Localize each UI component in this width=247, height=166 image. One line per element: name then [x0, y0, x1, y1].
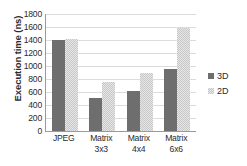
- x-axis-tick-label-line: Matrix: [158, 133, 196, 144]
- x-axis-tick-label-line: JPEG: [45, 133, 83, 144]
- y-axis-tick-label: 1000: [24, 61, 42, 71]
- bar-2d: [140, 73, 153, 131]
- y-axis-tick-label: 1200: [24, 48, 42, 58]
- bar-group: [46, 14, 84, 131]
- y-axis-tick-label: 600: [28, 87, 42, 97]
- y-axis-tick-label: 1600: [24, 22, 42, 32]
- legend-swatch-icon: [208, 88, 214, 94]
- bar-group: [159, 14, 197, 131]
- x-axis-tick-labels: JPEGMatrix3x3Matrix4x4Matrix6x6: [45, 133, 195, 155]
- bar-2d: [102, 82, 115, 131]
- x-axis-tick-label-line: 4x4: [120, 144, 158, 155]
- x-axis-tick-label-line: Matrix: [120, 133, 158, 144]
- x-axis-tick-label-line: 3x3: [83, 144, 121, 155]
- y-axis-tick-label: 400: [28, 100, 42, 110]
- legend-label: 3D: [217, 71, 229, 81]
- bar-3d: [89, 98, 102, 131]
- x-axis-tick-label: Matrix3x3: [83, 133, 121, 155]
- bar-group: [84, 14, 122, 131]
- legend-swatch-icon: [208, 73, 214, 79]
- bar-chart: Execution time (ns) 18001600140012001000…: [0, 0, 247, 166]
- legend-label: 2D: [217, 86, 229, 96]
- legend-item-3d[interactable]: 3D: [208, 68, 229, 83]
- bar-2d: [177, 28, 190, 131]
- y-axis-tick-label: 800: [28, 74, 42, 84]
- plot-area: [45, 14, 196, 132]
- bars-layer: [46, 14, 196, 131]
- x-axis-tick-label: Matrix6x6: [158, 133, 196, 155]
- y-axis-tick-label: 200: [28, 113, 42, 123]
- bar-3d: [164, 69, 177, 131]
- x-axis-tick-label-line: 6x6: [158, 144, 196, 155]
- bar-2d: [65, 39, 78, 131]
- bar-3d: [127, 91, 140, 131]
- legend-item-2d[interactable]: 2D: [208, 83, 229, 98]
- bar-3d: [52, 40, 65, 131]
- x-axis-tick-label: Matrix4x4: [120, 133, 158, 155]
- y-axis-tick-label: 1800: [24, 9, 42, 19]
- chart-legend: 3D2D: [208, 68, 229, 98]
- y-axis-tick-labels: 180016001400120010008006004002000: [16, 9, 42, 132]
- y-axis-tick-label: 1400: [24, 35, 42, 45]
- bar-group: [121, 14, 159, 131]
- y-axis-tick-label: 0: [37, 126, 42, 136]
- x-axis-tick-label-line: Matrix: [83, 133, 121, 144]
- x-axis-tick-label: JPEG: [45, 133, 83, 155]
